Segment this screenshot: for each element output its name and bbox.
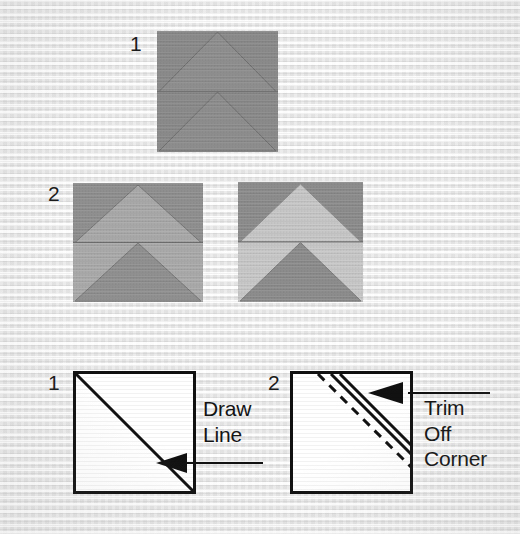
step-number-row-2: 2 <box>48 183 60 204</box>
step-number-panel-2: 2 <box>268 372 280 393</box>
quilt-block-low-contrast <box>73 183 203 302</box>
draw-line-callout-label: Draw Line <box>203 396 251 447</box>
step-number-panel-1: 1 <box>48 372 60 393</box>
trim-off-corner-callout-label: Trim Off Corner <box>424 395 487 472</box>
step-number-row-1: 1 <box>130 33 142 54</box>
quilt-block-finished-monotone <box>157 31 278 152</box>
quilt-block-high-contrast <box>238 182 363 302</box>
quilt-instruction-diagram: 1 2 <box>0 0 520 534</box>
